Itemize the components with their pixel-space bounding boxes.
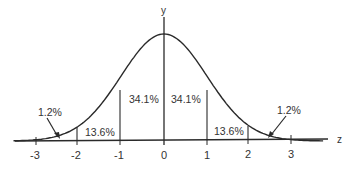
tick-label-p1: 1 — [204, 149, 210, 161]
tick-label-m2: -2 — [71, 149, 81, 161]
region-label-left-tail: 1.2% — [38, 106, 62, 118]
region-label-left-mid: 13.6% — [85, 126, 115, 138]
tick-label-p3: 3 — [288, 148, 294, 160]
left-tail-arrow — [47, 118, 60, 139]
region-label-right-mid: 13.6% — [214, 125, 244, 137]
z-axis-line — [15, 139, 328, 141]
region-label-left-center: 34.1% — [129, 93, 159, 105]
z-axis-label: z — [337, 134, 342, 145]
y-axis-label: y — [161, 5, 166, 16]
normal-distribution-chart: z y -3 -2 -1 0 1 2 3 34.1% 34.1% 13.6% 1… — [0, 0, 355, 169]
right-tail-arrow — [268, 116, 286, 138]
tick-label-m3: -3 — [30, 149, 40, 161]
tick-label-0: 0 — [161, 149, 167, 161]
bell-curve — [14, 34, 324, 141]
region-label-right-center: 34.1% — [171, 93, 201, 105]
tick-label-p2: 2 — [245, 148, 251, 160]
region-label-right-tail: 1.2% — [277, 104, 301, 116]
tick-label-m1: -1 — [114, 149, 124, 161]
